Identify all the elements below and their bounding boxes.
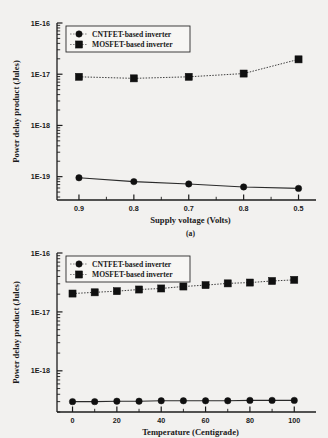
data-point-square — [69, 290, 76, 297]
data-point-circle — [225, 398, 231, 404]
data-point-square — [91, 289, 98, 296]
x-axis-title: Supply voltage (Volts) — [150, 215, 231, 225]
data-point-square — [269, 277, 276, 284]
y-tick-label: 1E-18 — [31, 121, 50, 130]
data-point-square — [130, 75, 137, 82]
x-tick-label: 0.8 — [239, 204, 249, 213]
data-point-square — [246, 279, 253, 286]
legend-label: CNTFET-based inverter — [92, 30, 172, 39]
data-point-circle — [295, 185, 301, 191]
data-point-square — [185, 73, 192, 80]
legend-marker-square — [75, 271, 82, 278]
x-tick-label: 80 — [246, 416, 254, 425]
y-tick-label: 1E-16 — [31, 249, 50, 258]
data-point-circle — [180, 398, 186, 404]
data-point-square — [135, 286, 142, 293]
data-point-square — [75, 73, 82, 80]
figure-caption: (a) — [186, 229, 195, 238]
x-tick-label: 60 — [202, 416, 210, 425]
data-point-circle — [291, 397, 297, 403]
data-point-circle — [76, 175, 82, 181]
y-tick-label: 1E-18 — [31, 366, 50, 375]
y-tick-label: 1E-16 — [31, 19, 50, 28]
y-tick-label: 1E-17 — [31, 70, 50, 79]
legend-marker-circle — [76, 31, 82, 37]
data-point-circle — [269, 397, 275, 403]
chart-supply-voltage: 1E-161E-171E-181E-190.90.80.70.80.5CNTFE… — [0, 0, 328, 245]
x-tick-label: 0.7 — [184, 204, 194, 213]
legend-marker-square — [75, 41, 82, 48]
legend-label: MOSFET-based inverter — [92, 40, 173, 49]
data-point-circle — [202, 398, 208, 404]
x-tick-label: 0.9 — [74, 204, 84, 213]
data-point-circle — [136, 398, 142, 404]
data-point-circle — [91, 398, 97, 404]
y-axis-title: Power delay product (Jules) — [11, 281, 21, 384]
data-point-square — [295, 56, 302, 63]
x-tick-label: 40 — [157, 416, 165, 425]
data-point-circle — [240, 184, 246, 190]
y-tick-label: 1E-19 — [31, 172, 50, 181]
data-point-square — [224, 280, 231, 287]
data-point-circle — [247, 397, 253, 403]
x-tick-label: 0 — [71, 416, 75, 425]
data-point-square — [158, 285, 165, 292]
x-tick-label: 20 — [113, 416, 121, 425]
y-tick-label: 1E-17 — [31, 308, 50, 317]
data-point-circle — [186, 181, 192, 187]
x-tick-label: 0.8 — [129, 204, 139, 213]
data-point-circle — [131, 178, 137, 184]
legend-label: CNTFET-based inverter — [92, 260, 172, 269]
plot-area-fig-b: 1E-161E-171E-18020406080100CNTFET-based … — [0, 238, 328, 438]
data-point-circle — [114, 398, 120, 404]
data-point-square — [180, 283, 187, 290]
x-axis-title: Temperature (Centigrade) — [142, 427, 239, 437]
legend-marker-circle — [76, 261, 82, 267]
data-point-circle — [69, 398, 75, 404]
y-axis-title: Power delay product (Jules) — [11, 60, 21, 163]
data-point-square — [291, 276, 298, 283]
data-point-square — [113, 288, 120, 295]
data-point-circle — [158, 398, 164, 404]
chart-temperature: 1E-161E-171E-18020406080100CNTFET-based … — [0, 238, 328, 438]
data-point-square — [240, 70, 247, 77]
legend-label: MOSFET-based inverter — [92, 270, 173, 279]
plot-area-fig-a: 1E-161E-171E-181E-190.90.80.70.80.5CNTFE… — [0, 0, 328, 245]
x-tick-label: 100 — [288, 416, 300, 425]
x-tick-label: 0.5 — [294, 204, 304, 213]
data-point-square — [202, 282, 209, 289]
